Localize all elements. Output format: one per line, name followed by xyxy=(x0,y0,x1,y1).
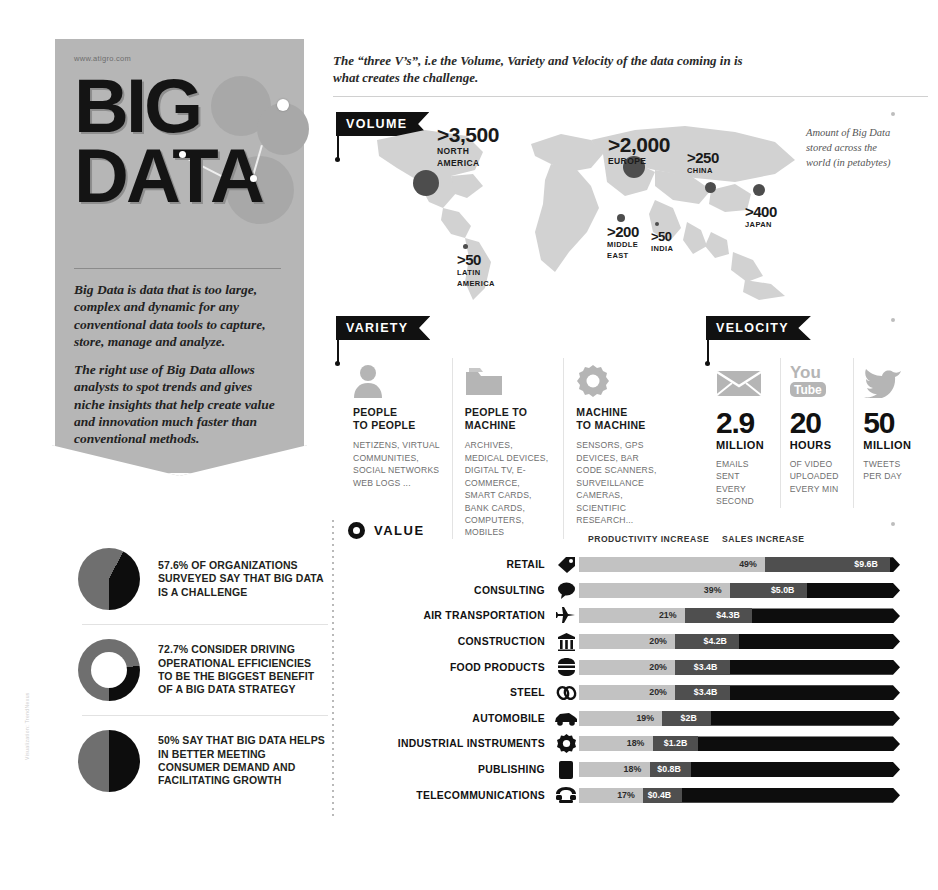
variety-title-line2: TO MACHINE xyxy=(576,419,663,432)
world-map: >3,500 NORTH AMERICA >2,000 EUROPE >250 … xyxy=(355,112,825,307)
map-region-line1: MIDDLE xyxy=(607,241,639,250)
bar-productivity-label: 49% xyxy=(739,557,757,572)
map-dot-middle-east xyxy=(617,214,625,222)
bar-productivity-label: 18% xyxy=(627,736,645,751)
side-credit: Visualization: TrendNexus xyxy=(24,670,30,760)
cog-icon xyxy=(553,734,579,753)
map-region-line1: NORTH xyxy=(437,147,499,157)
bar-track: 17% $0.4B xyxy=(579,788,900,803)
bar-productivity-label: 18% xyxy=(624,762,642,777)
bar-productivity-label: 39% xyxy=(704,583,722,598)
bar-track: 49% $9.6B xyxy=(579,557,900,572)
map-dot-india xyxy=(655,222,659,226)
bar-sales-label: $2B xyxy=(681,711,697,726)
flag-dot xyxy=(705,361,710,366)
variety-title-line2: TO PEOPLE xyxy=(353,419,440,432)
variety-description: SENSORS, GPS DEVICES, BAR CODE SCANNERS,… xyxy=(576,439,663,526)
bar-sales-label: $0.4B xyxy=(648,788,671,803)
variety-title-line2: MACHINE xyxy=(465,419,552,432)
svg-text:Tube: Tube xyxy=(794,383,822,397)
velocity-description: OF VIDEO UPLOADED EVERY MIN xyxy=(790,458,845,495)
bar-sales-label: $4.2B xyxy=(704,634,727,649)
map-value: >50 xyxy=(651,230,673,243)
bar-sales-label: $4.3B xyxy=(716,608,739,623)
bar-sales-label: $5.0B xyxy=(771,583,794,598)
svg-text:You: You xyxy=(790,363,821,382)
variety-column-machine-to-machine: MACHINE TO MACHINE SENSORS, GPS DEVICES,… xyxy=(563,358,675,539)
donut-label: 72.7% CONSIDER DRIVING OPERATIONAL EFFIC… xyxy=(158,643,328,697)
bar-track: 20% $4.2B xyxy=(579,634,900,649)
map-region-line2: AMERICA xyxy=(457,280,495,289)
section-flag-velocity-label: VELOCITY xyxy=(706,316,811,340)
table-row: AIR TRANSPORTATION 21% $4.3B xyxy=(380,603,900,629)
wordmark-line-1: BIG xyxy=(74,71,285,141)
bar-productivity xyxy=(579,557,765,572)
youtube-icon: You Tube xyxy=(790,358,845,398)
bar-sales-label: $3.4B xyxy=(694,660,717,675)
building-icon xyxy=(553,633,579,651)
bar-productivity-label: 21% xyxy=(659,608,677,623)
column-header-productivity: PRODUCTIVITY INCREASE xyxy=(588,534,709,544)
row-label: RETAIL xyxy=(380,559,553,570)
list-item: 57.6% OF ORGANIZATIONS SURVEYED SAY THAT… xyxy=(78,534,328,624)
table-row: TELECOMMUNICATIONS 17% $0.4B xyxy=(380,782,900,808)
flag-dot xyxy=(335,157,340,162)
row-label: CONSTRUCTION xyxy=(380,636,553,647)
map-dot-latin-america xyxy=(463,244,468,249)
section-flag-variety-label: VARIETY xyxy=(336,316,430,340)
map-label-middle-east: >200 MIDDLE EAST xyxy=(607,224,639,260)
row-label: CONSULTING xyxy=(380,585,553,596)
table-row: CONSTRUCTION 20% $4.2B xyxy=(380,629,900,655)
speech-bubble-icon xyxy=(553,581,579,600)
bar-sales-label: $0.8B xyxy=(657,762,680,777)
banner-url[interactable]: www.atigro.com xyxy=(74,54,285,63)
flag-pole xyxy=(707,340,709,362)
airplane-icon xyxy=(553,606,579,625)
bar-productivity-label: 20% xyxy=(649,634,667,649)
map-label-japan: >400 JAPAN xyxy=(745,204,777,230)
intro-text: The “three V’s”, i.e the Volume, Variety… xyxy=(333,52,753,86)
map-dot-japan xyxy=(753,184,765,196)
velocity-number: 20 xyxy=(790,408,845,438)
map-label-europe: >2,000 EUROPE xyxy=(608,134,670,167)
velocity-description: TWEETS PER DAY xyxy=(863,458,918,483)
table-row: INDUSTRIAL INSTRUMENTS 18% $1.2B xyxy=(380,731,900,757)
burger-icon xyxy=(553,658,579,676)
bar-track: 20% $3.4B xyxy=(579,660,900,675)
bar-productivity-label: 20% xyxy=(649,660,667,675)
map-value: >2,000 xyxy=(608,134,670,155)
corner-dot xyxy=(891,522,895,526)
velocity-description: EMAILS SENT EVERY SECOND xyxy=(716,458,771,508)
map-region-line2: EAST xyxy=(607,252,639,261)
row-label: PUBLISHING xyxy=(380,764,553,775)
network-node xyxy=(250,175,257,182)
network-node xyxy=(277,99,289,111)
column-header-sales: SALES INCREASE xyxy=(722,534,804,544)
table-row: CONSULTING 39% $5.0B xyxy=(380,578,900,604)
banner-content: www.atigro.com BIG DATA Big Data is data… xyxy=(52,36,307,476)
map-value: >200 xyxy=(607,224,639,239)
table-row: FOOD PRODUCTS 20% $3.4B xyxy=(380,654,900,680)
map-label-latin-america: >50 LATIN AMERICA xyxy=(457,252,495,288)
flag-pole xyxy=(337,340,339,362)
map-value: >400 xyxy=(745,204,777,219)
big-data-banner: www.atigro.com BIG DATA Big Data is data… xyxy=(52,36,307,476)
row-label: INDUSTRIAL INSTRUMENTS xyxy=(380,738,553,749)
row-label: STEEL xyxy=(380,687,553,698)
intro-divider xyxy=(333,96,928,97)
row-label: FOOD PRODUCTS xyxy=(380,662,553,673)
velocity-column-youtube: You Tube 20 HOURS OF VIDEO UPLOADED EVER… xyxy=(780,358,854,508)
variety-title-line1: PEOPLE TO xyxy=(465,406,552,419)
pie-chart-57 xyxy=(78,548,140,610)
banner-paragraph-2: The right use of Big Data allows analyst… xyxy=(74,361,285,447)
map-region-line1: INDIA xyxy=(651,245,673,254)
section-title-value: VALUE xyxy=(374,523,425,538)
variety-column-people-to-machine: PEOPLE TO MACHINE ARCHIVES, MEDICAL DEVI… xyxy=(452,358,564,539)
chain-link-icon xyxy=(553,685,579,701)
row-label: AUTOMOBILE xyxy=(380,713,553,724)
bar-productivity-label: 20% xyxy=(649,685,667,700)
table-row: PUBLISHING 18% $0.8B xyxy=(380,757,900,783)
map-value: >50 xyxy=(457,252,495,267)
twitter-bird-icon xyxy=(863,358,918,398)
velocity-column-emails: 2.9 MILLION EMAILS SENT EVERY SECOND xyxy=(712,358,780,508)
